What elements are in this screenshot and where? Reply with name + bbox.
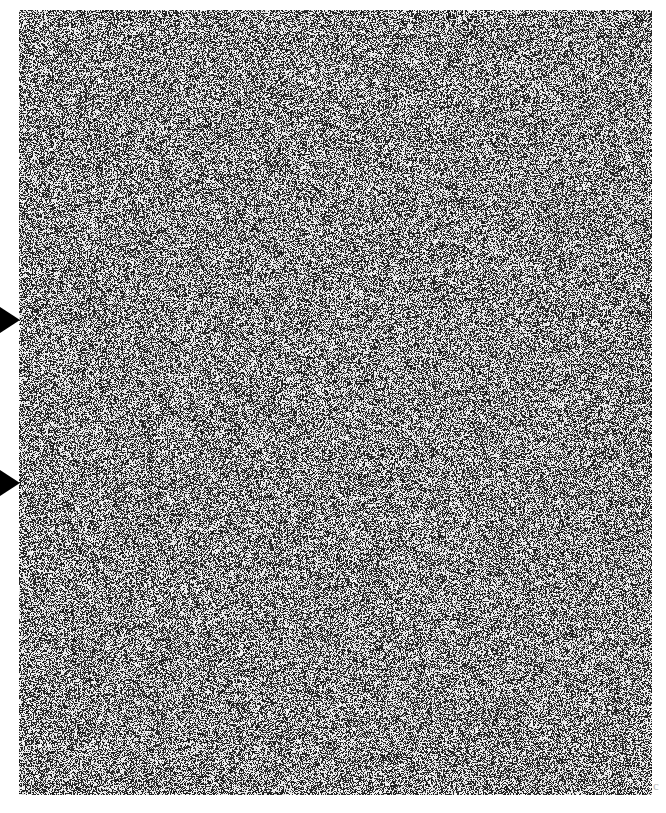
margin-pointer-lower: [0, 470, 20, 496]
dither-noise-field: [19, 10, 652, 795]
edge-glyph: c: [653, 779, 659, 792]
margin-pointer-upper: [0, 307, 20, 333]
noise-raster: [19, 10, 652, 795]
page-canvas: c Scanned page consisting almost entirel…: [0, 0, 666, 813]
